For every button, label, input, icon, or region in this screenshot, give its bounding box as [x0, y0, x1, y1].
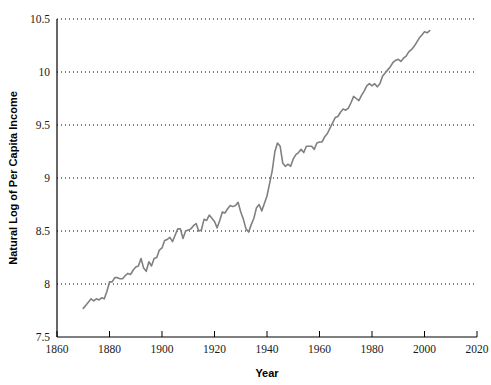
x-tick-label: 1920	[203, 343, 226, 355]
y-tick-label: 10.5	[30, 13, 50, 25]
x-tick-label: 1880	[98, 343, 121, 355]
y-tick-label: 9	[44, 172, 50, 184]
x-tick-label: 1960	[308, 343, 331, 355]
chart-container: 7.588.599.51010.5 1860188019001920194019…	[0, 0, 491, 385]
x-tick-label: 1860	[46, 343, 69, 355]
line-chart: 7.588.599.51010.5 1860188019001920194019…	[0, 0, 491, 385]
x-tick-label: 2020	[466, 343, 489, 355]
x-axis-tick-labels: 186018801900192019401960198020002020	[46, 343, 489, 355]
x-tick-label: 2000	[413, 343, 436, 355]
x-tick-label: 1980	[361, 343, 384, 355]
y-tick-label: 8	[44, 278, 50, 290]
y-tick-label: 7.5	[36, 331, 51, 343]
y-tick-label: 8.5	[36, 225, 51, 237]
y-tick-label: 10	[39, 66, 51, 78]
x-tick-label: 1940	[256, 343, 279, 355]
chart-background	[0, 0, 491, 385]
x-axis-title: Year	[255, 367, 279, 379]
x-tick-label: 1900	[151, 343, 174, 355]
y-axis-title: Natural Log of Per Capita Income	[7, 91, 19, 265]
y-tick-label: 9.5	[36, 119, 51, 131]
